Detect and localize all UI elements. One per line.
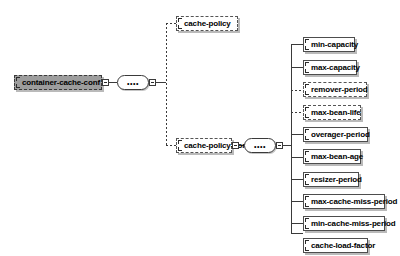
element-cache-policy-conf[interactable]: cache-policy-conf bbox=[176, 138, 232, 153]
sequence-compositor-root[interactable]: •••• bbox=[117, 75, 149, 90]
element-container-cache-conf[interactable]: container-cache-conf bbox=[14, 75, 102, 90]
element-remover-period[interactable]: remover-period bbox=[303, 82, 367, 97]
expander-cache-policy-conf[interactable] bbox=[232, 142, 239, 149]
element-cache-policy[interactable]: cache-policy bbox=[176, 16, 238, 31]
element-max-cache-miss-period[interactable]: max-cache-miss-period bbox=[303, 194, 385, 209]
element-overager-period[interactable]: overager-period bbox=[303, 127, 368, 142]
element-min-cache-miss-period[interactable]: min-cache-miss-period bbox=[303, 216, 385, 231]
schema-diagram-canvas: container-cache-conf •••• cache-policy c… bbox=[0, 0, 400, 256]
expander-sequence-cache-policy-conf[interactable] bbox=[276, 142, 283, 149]
element-resizer-period[interactable]: resizer-period bbox=[303, 172, 359, 187]
sequence-compositor-cache-policy-conf[interactable]: •••• bbox=[244, 138, 276, 153]
sequence-dots-cache-policy-conf: •••• bbox=[245, 142, 275, 149]
sequence-dots-root: •••• bbox=[118, 79, 148, 86]
element-cache-load-factor[interactable]: cache-load-factor bbox=[303, 238, 368, 253]
expander-sequence-root[interactable] bbox=[149, 79, 156, 86]
expander-container-cache-conf[interactable] bbox=[102, 79, 109, 86]
element-max-capacity[interactable]: max-capacity bbox=[303, 60, 357, 75]
element-min-capacity[interactable]: min-capacity bbox=[303, 37, 355, 52]
element-max-bean-age[interactable]: max-bean-age bbox=[303, 149, 361, 164]
element-max-bean-life[interactable]: max-bean-life bbox=[303, 105, 361, 120]
